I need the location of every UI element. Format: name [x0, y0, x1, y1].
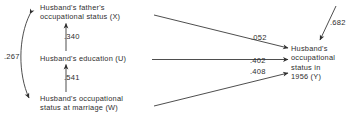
node-y-line-1: Husband's	[291, 44, 335, 53]
coefficient-label-u-to-y: .402	[250, 56, 266, 65]
coefficient-label-x-to-y: .052	[251, 33, 267, 42]
coefficient-label-w-to-u: .541	[64, 73, 80, 82]
edge-w-to-y	[154, 73, 288, 106]
node-husband-occupational-status-1956: Husband's occupational status in 1956 (Y…	[291, 44, 335, 81]
node-husband-occupational-status-at-marriage: Husband's occupational status at marriag…	[40, 94, 123, 113]
node-husband-father-occupational-status: Husband's father's occupational status (…	[40, 3, 120, 22]
coefficient-label-u-to-x: .340	[64, 32, 80, 41]
path-diagram: Husband's father's occupational status (…	[0, 0, 356, 124]
coefficient-label-x-correlation-w: .267	[4, 52, 20, 61]
node-y-line-3: status in	[291, 63, 335, 72]
coefficient-label-residual: .682	[330, 18, 346, 27]
node-w-line-1: Husband's occupational	[40, 94, 123, 103]
node-husband-education: Husband's education (U)	[40, 54, 126, 63]
node-u-line-1: Husband's education (U)	[40, 54, 126, 63]
coefficient-label-w-to-y: .408	[250, 67, 266, 76]
node-x-line-2: occupational status (X)	[40, 12, 120, 21]
node-y-line-4: 1956 (Y)	[291, 72, 335, 81]
node-y-line-2: occupational	[291, 53, 335, 62]
edge-x-to-y	[154, 15, 288, 48]
edge-x-correlation-w	[21, 14, 30, 98]
node-w-line-2: status at marriage (W)	[40, 103, 123, 112]
node-x-line-1: Husband's father's	[40, 3, 120, 12]
